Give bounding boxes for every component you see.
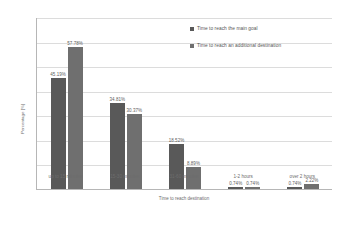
x-axis-tick-label: 1-2 hours [233,174,252,179]
bar-group: 0.74%2.22% [274,184,333,189]
bar-value-label: 8.89% [187,161,200,166]
legend-label: Time to reach an additional destination [197,43,281,48]
bar-wrapper: 18.52% [169,144,184,190]
x-axis-tick-label: 31-60 minutes [169,174,198,179]
bar-value-label: 0.74% [288,181,301,186]
bar-value-label: 30.37% [127,108,143,113]
bar-wrapper: 0.74% [287,187,302,189]
bar-value-label: 0.74% [246,181,259,186]
bar [169,144,184,190]
bar [304,184,319,189]
bar [228,187,243,189]
bar [68,47,83,189]
bar-wrapper: 0.74% [245,187,260,189]
x-axis-tick-label: up to 15 minutes [49,174,83,179]
bar-value-label: 34.81% [110,97,126,102]
bar [287,187,302,189]
y-axis-title: Percentage [%] [20,103,25,133]
bar-wrapper: 45.19% [51,78,66,189]
x-axis-tick-label: over 2 hours [290,174,316,179]
plot-area: 0%10%20%30%40%50%60%70% 45.19%57.78%34.8… [36,18,332,190]
legend-item: Time to reach the main goal [190,26,281,31]
bar-chart: Percentage [%] 0%10%20%30%40%50%60%70% 4… [0,0,341,237]
bar-value-label: 0.74% [229,181,242,186]
legend-swatch-icon [190,27,194,31]
bar-group: 45.19%57.78% [37,47,96,189]
bar-value-label: 57.78% [67,41,83,46]
legend-label: Time to reach the main goal [197,26,258,31]
bar [51,78,66,189]
x-axis-title: Time to reach destination [36,196,332,201]
legend-swatch-icon [190,44,194,48]
legend-item: Time to reach an additional destination [190,43,281,48]
legend: Time to reach the main goal Time to reac… [190,26,281,60]
bars-layer: 45.19%57.78%34.81%30.37%18.52%8.89%0.74%… [37,18,332,189]
bar [245,187,260,189]
bar-wrapper: 0.74% [228,187,243,189]
bar-value-label: 18.52% [169,138,185,143]
bar-group: 18.52%8.89% [155,144,214,190]
bar-wrapper: 57.78% [68,47,83,189]
bar-wrapper: 2.22% [304,184,319,189]
bar-value-label: 45.19% [50,72,66,77]
bar-group: 0.74%0.74% [215,187,274,189]
x-axis-tick-label: 15-30 minutes [110,174,139,179]
